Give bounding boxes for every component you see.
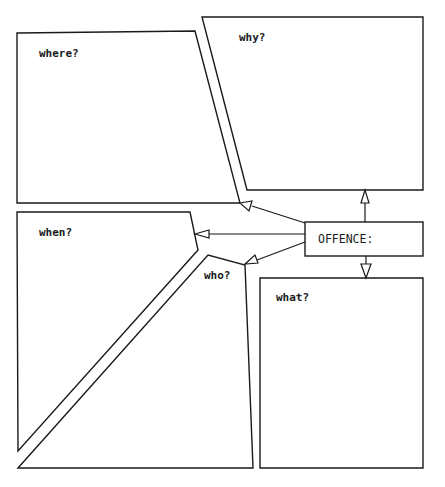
when-label: when? <box>39 226 72 239</box>
what-panel: what? <box>260 278 423 468</box>
offence-box: OFFENCE: <box>305 222 423 256</box>
why-label: why? <box>239 31 266 44</box>
arrow-to-where <box>240 201 305 223</box>
arrow-to-what <box>361 256 371 278</box>
where-panel: where? <box>17 31 240 203</box>
offence-label: OFFENCE: <box>318 232 373 246</box>
where-label: where? <box>39 47 79 60</box>
arrowhead-icon <box>361 190 369 203</box>
what-label: what? <box>276 291 309 304</box>
who-label: who? <box>204 269 231 282</box>
arrowhead-icon <box>361 264 371 278</box>
arrow-to-why <box>361 190 369 222</box>
arrowhead-icon <box>195 230 209 238</box>
why-panel: why? <box>202 17 423 190</box>
arrowhead-icon <box>245 255 258 264</box>
arrow-to-when <box>195 230 305 238</box>
arrow-to-who <box>245 242 305 264</box>
offence-analysis-diagram: where? why? when? who? what? OFFENCE: <box>0 0 445 487</box>
arrowhead-icon <box>240 201 252 211</box>
